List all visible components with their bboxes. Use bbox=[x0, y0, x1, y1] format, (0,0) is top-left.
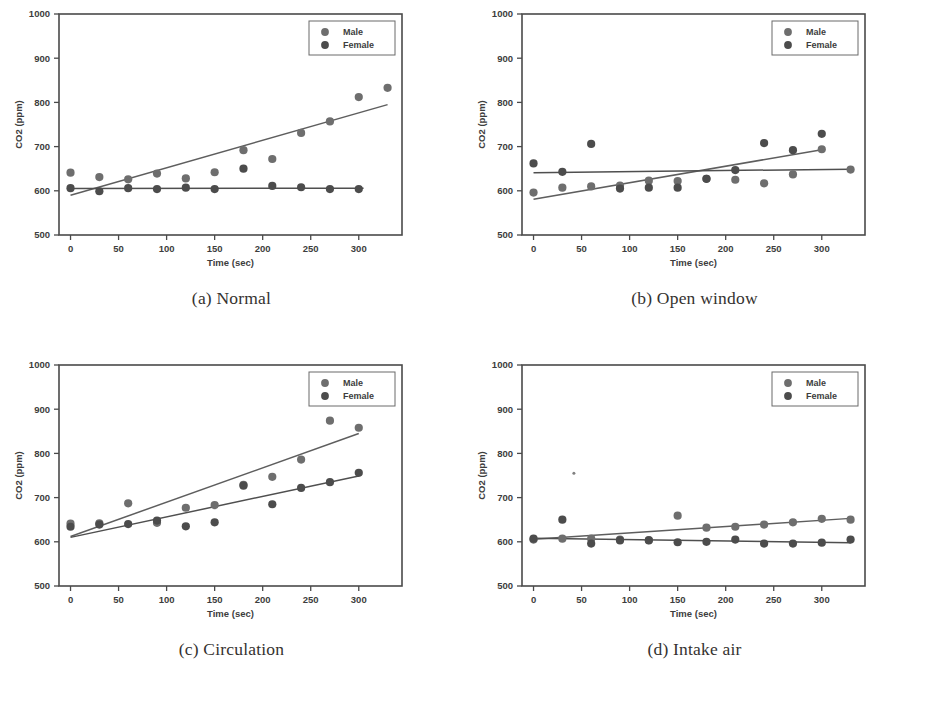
x-tick-label: 300 bbox=[351, 594, 367, 605]
legend: MaleFemale bbox=[309, 372, 395, 406]
legend-marker-male bbox=[321, 379, 329, 387]
panel-caption-a: (a) Normal bbox=[0, 288, 463, 309]
legend-label-female: Female bbox=[806, 40, 837, 50]
legend-marker-female bbox=[321, 41, 329, 49]
data-point-male bbox=[558, 535, 566, 543]
data-point-male bbox=[760, 179, 768, 187]
y-tick-label: 1000 bbox=[29, 359, 50, 370]
x-tick-label: 50 bbox=[113, 243, 124, 254]
data-point-female bbox=[355, 469, 363, 477]
legend-label-male: Male bbox=[806, 27, 826, 37]
figure-grid: 5006007008009001000050100150200250300Tim… bbox=[0, 0, 926, 703]
y-tick-label: 800 bbox=[34, 97, 50, 108]
x-axis-title: Time (sec) bbox=[670, 608, 717, 619]
x-tick-label: 300 bbox=[351, 243, 367, 254]
trend-line-male bbox=[71, 105, 388, 196]
data-point-male bbox=[789, 170, 797, 178]
data-point-male bbox=[702, 524, 710, 532]
x-tick-label: 150 bbox=[670, 594, 686, 605]
data-point-female bbox=[529, 159, 537, 167]
data-point-female bbox=[616, 184, 624, 192]
x-tick-label: 50 bbox=[576, 243, 587, 254]
data-point-female bbox=[731, 166, 739, 174]
y-axis-title: CO2 (ppm) bbox=[13, 100, 24, 149]
data-point-female bbox=[239, 165, 247, 173]
x-tick-label: 100 bbox=[622, 594, 638, 605]
y-axis-title: CO2 (ppm) bbox=[13, 451, 24, 500]
data-point-male bbox=[674, 512, 682, 520]
data-point-male bbox=[211, 501, 219, 509]
panel-caption-c: (c) Circulation bbox=[0, 639, 463, 660]
y-tick-label: 800 bbox=[497, 97, 513, 108]
legend: MaleFemale bbox=[772, 372, 858, 406]
x-tick-label: 150 bbox=[207, 594, 223, 605]
x-tick-label: 250 bbox=[766, 243, 782, 254]
y-tick-label: 700 bbox=[34, 141, 50, 152]
legend: MaleFemale bbox=[309, 21, 395, 55]
data-point-male bbox=[239, 146, 247, 154]
data-point-male bbox=[355, 424, 363, 432]
x-tick-label: 200 bbox=[718, 243, 734, 254]
data-point-female bbox=[846, 535, 854, 543]
data-point-female bbox=[124, 184, 132, 192]
legend-label-male: Male bbox=[806, 378, 826, 388]
y-axis-title: CO2 (ppm) bbox=[476, 100, 487, 149]
y-tick-label: 600 bbox=[497, 536, 513, 547]
legend-marker-male bbox=[784, 379, 792, 387]
data-point-female bbox=[153, 185, 161, 193]
x-tick-label: 200 bbox=[255, 243, 271, 254]
y-tick-label: 1000 bbox=[492, 8, 513, 19]
data-point-female bbox=[731, 535, 739, 543]
y-tick-label: 500 bbox=[497, 580, 513, 591]
data-point-male bbox=[297, 455, 305, 463]
data-point-female bbox=[702, 175, 710, 183]
x-axis-title: Time (sec) bbox=[670, 257, 717, 268]
plot-area-b: 5006007008009001000050100150200250300Tim… bbox=[463, 0, 926, 300]
y-tick-label: 600 bbox=[34, 185, 50, 196]
data-point-male bbox=[211, 168, 219, 176]
y-tick-label: 700 bbox=[497, 141, 513, 152]
data-point-female bbox=[124, 520, 132, 528]
y-tick-label: 500 bbox=[497, 229, 513, 240]
data-point-male bbox=[818, 145, 826, 153]
data-point-female bbox=[182, 184, 190, 192]
x-tick-label: 0 bbox=[531, 594, 536, 605]
data-point-male bbox=[326, 117, 334, 125]
x-axis-title: Time (sec) bbox=[207, 257, 254, 268]
data-point-female bbox=[760, 139, 768, 147]
data-point-male bbox=[846, 165, 854, 173]
data-point-male bbox=[789, 518, 797, 526]
trend-line-female bbox=[534, 538, 851, 542]
x-tick-label: 100 bbox=[159, 243, 175, 254]
legend-marker-male bbox=[321, 28, 329, 36]
data-point-female bbox=[645, 536, 653, 544]
y-tick-label: 500 bbox=[34, 229, 50, 240]
y-tick-label: 600 bbox=[497, 185, 513, 196]
y-axis-title: CO2 (ppm) bbox=[476, 451, 487, 500]
data-point-female bbox=[702, 538, 710, 546]
legend-marker-female bbox=[321, 392, 329, 400]
data-point-male bbox=[731, 523, 739, 531]
data-point-male bbox=[846, 516, 854, 524]
legend-label-male: Male bbox=[343, 27, 363, 37]
legend-marker-female bbox=[784, 392, 792, 400]
data-point-female bbox=[211, 518, 219, 526]
y-tick-label: 900 bbox=[497, 53, 513, 64]
data-point-female bbox=[529, 535, 537, 543]
data-point-male bbox=[268, 473, 276, 481]
data-point-male bbox=[326, 417, 334, 425]
data-point-female bbox=[558, 516, 566, 524]
chart-panel-c: 5006007008009001000050100150200250300Tim… bbox=[0, 351, 463, 702]
data-point-female bbox=[239, 482, 247, 490]
y-tick-label: 800 bbox=[34, 448, 50, 459]
data-point-female bbox=[789, 146, 797, 154]
data-point-male bbox=[731, 176, 739, 184]
data-point-female bbox=[268, 500, 276, 508]
data-point-male bbox=[153, 169, 161, 177]
x-tick-label: 150 bbox=[670, 243, 686, 254]
x-tick-label: 0 bbox=[68, 243, 73, 254]
y-tick-label: 900 bbox=[34, 53, 50, 64]
data-point-female bbox=[587, 140, 595, 148]
data-point-female bbox=[66, 184, 74, 192]
data-point-male bbox=[95, 173, 103, 181]
